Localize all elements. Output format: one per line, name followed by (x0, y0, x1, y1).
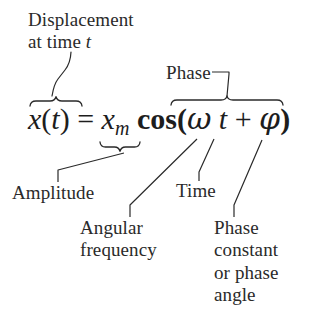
callout-displacement-line1: Displacement (28, 9, 134, 30)
callout-angular-frequency-line1: Angular (80, 217, 143, 238)
equation-annotation-figure: Displacementat time t Phase x(t) = xm co… (0, 0, 311, 327)
equation-space-1 (129, 102, 137, 135)
equation-space-2 (211, 102, 219, 135)
equation-phase-constant-symbol: φ (259, 101, 280, 136)
callout-phase-constant-line2: constant (214, 239, 278, 260)
underbrace-amplitude (100, 142, 140, 152)
callout-displacement-line2-prefix: at time (28, 31, 86, 52)
leader-angular-frequency (130, 139, 197, 217)
equation-lhs-open-paren: ( (41, 102, 51, 135)
callout-phase-constant-line3: or phase (214, 262, 279, 283)
leader-time (199, 139, 214, 181)
equation-arg-close-paren: ) (280, 102, 290, 135)
equation: x(t) = xm cos(ω t + φ) (28, 104, 290, 138)
equation-function-name: cos (137, 102, 177, 135)
leader-amplitude (58, 153, 124, 182)
callout-angular-frequency-line2: frequency (80, 239, 157, 260)
callout-phase-constant-line4: angle (214, 284, 256, 305)
equation-equals: = (70, 102, 102, 135)
equation-arg-open-paren: ( (177, 102, 187, 135)
callout-displacement: Displacementat time t (28, 9, 134, 54)
equation-plus: + (227, 102, 259, 135)
equation-lhs-close-paren: ) (60, 102, 70, 135)
callout-time: Time (176, 180, 216, 202)
equation-amplitude-symbol: x (102, 102, 115, 135)
callout-phase: Phase (166, 62, 211, 84)
leader-phase (212, 72, 229, 96)
callout-phase-constant: Phaseconstantor phaseangle (214, 217, 279, 307)
equation-angular-frequency-symbol: ω (187, 101, 211, 136)
callout-angular-frequency: Angularfrequency (80, 217, 157, 262)
equation-lhs-argument: t (51, 102, 59, 135)
leader-phase-constant (234, 140, 262, 217)
callout-displacement-time-symbol: t (86, 31, 91, 52)
callout-amplitude: Amplitude (12, 182, 94, 204)
callout-phase-constant-line1: Phase (214, 217, 259, 238)
leader-displacement (52, 52, 71, 96)
equation-lhs-variable: x (28, 102, 41, 135)
equation-time-symbol: t (219, 102, 227, 135)
equation-amplitude-subscript: m (115, 117, 129, 139)
